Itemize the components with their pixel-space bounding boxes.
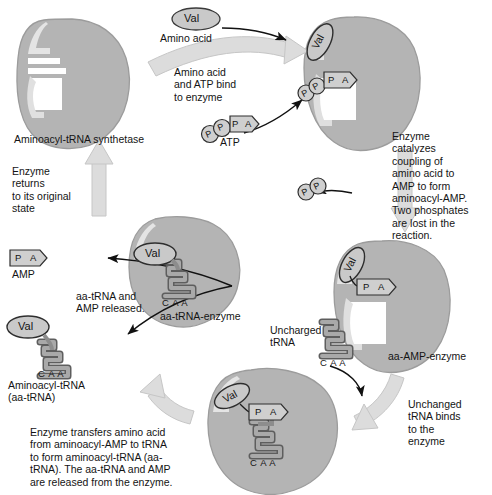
label-aa-amp-enzyme: aa-AMP-enzyme (388, 350, 466, 362)
label-synthetase: Aminoacyl-tRNA synthetase (14, 133, 144, 145)
label-amp-free-p: P (15, 252, 21, 264)
label-anticodon-uncharged: C A A (320, 357, 346, 369)
diagram-canvas: Val Amino acid Amino acid and ATP bind t… (0, 0, 492, 495)
label-aminoacyl-trna-abbrev: (aa-tRNA) (8, 391, 55, 403)
label-amp-bound3-a: A (378, 281, 384, 293)
label-val-aminoacyl-free: Val (18, 321, 33, 333)
step-transfer-text: Enzyme transfers amino acid from aminoac… (30, 426, 172, 488)
step-bind-text: Amino acid and ATP bind to enzyme (174, 66, 236, 103)
label-amp-bound4-a: A (270, 406, 276, 418)
step-returns-text: Enzyme returns to its original state (12, 165, 71, 215)
cycle-arrow-bottom-left (140, 374, 194, 424)
label-amp-free-a: A (30, 252, 36, 264)
label-amino-acid: Amino acid (160, 32, 212, 44)
label-anticodon-middle: C A A (162, 297, 188, 309)
cycle-arrow-bottom-right (352, 374, 404, 430)
label-uncharged-trna-line1: Uncharged (270, 324, 321, 336)
label-atp-a: A (245, 118, 251, 130)
label-atp-p3: P (232, 118, 238, 130)
step-trna-binds-text: Unchanged tRNA binds to the enzyme (408, 398, 462, 448)
label-val-top: Val (184, 13, 199, 25)
step-released-text: aa-tRNA and AMP released. (76, 290, 145, 315)
pointer-trna-to-enzyme (330, 366, 362, 396)
label-anticodon-bottom: C A A (250, 457, 276, 469)
label-atpbound-p3: P (328, 74, 334, 86)
label-amp: AMP (12, 268, 35, 280)
label-atpbound-a: A (342, 74, 348, 86)
step-catalyze-text: Enzyme catalyzes coupling of amino acid … (392, 130, 468, 242)
label-anticodon-free: C A A (38, 368, 64, 380)
label-amp-bound3-p: P (363, 281, 369, 293)
enzyme-free-synthetase (17, 19, 129, 149)
label-val-enzyme-middle: Val (145, 248, 160, 260)
label-aa-trna-enzyme: aa-tRNA-enzyme (160, 310, 241, 322)
label-aminoacyl-trna: Aminoacyl-tRNA (8, 379, 85, 391)
label-atp: ATP (220, 136, 240, 148)
label-amp-bound4-p: P (255, 406, 261, 418)
label-uncharged-trna-line2: tRNA (270, 336, 295, 348)
cycle-arrow-left (85, 140, 113, 216)
